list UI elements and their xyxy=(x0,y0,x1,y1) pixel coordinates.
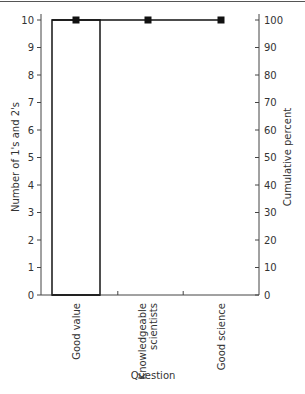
bars xyxy=(52,20,100,295)
left-tick-label: 0 xyxy=(28,290,34,301)
y-axis-title-left: Number of 1's and 2's xyxy=(10,102,21,212)
left-y-axis: 012345678910 xyxy=(21,14,41,301)
left-tick-label: 9 xyxy=(28,42,34,53)
right-tick-label: 30 xyxy=(264,207,277,218)
right-tick-label: 50 xyxy=(264,152,277,163)
right-tick-label: 70 xyxy=(264,97,277,108)
right-tick-label: 60 xyxy=(264,125,277,136)
x-axis-title: Question xyxy=(131,370,176,381)
right-tick-label: 80 xyxy=(264,70,277,81)
x-tick-label: Good science xyxy=(216,303,227,370)
left-tick-label: 1 xyxy=(28,262,34,273)
cumulative-line xyxy=(52,17,225,24)
pareto-chart: 012345678910 0102030405060708090100 Good… xyxy=(0,0,305,394)
left-tick-label: 5 xyxy=(28,152,34,163)
left-tick-label: 2 xyxy=(28,235,34,246)
right-tick-label: 10 xyxy=(264,262,277,273)
square-marker xyxy=(73,17,80,24)
left-tick-label: 6 xyxy=(28,125,34,136)
right-y-axis: 0102030405060708090100 xyxy=(255,14,283,301)
x-tick-label: Knowledgeable xyxy=(137,303,148,379)
right-tick-label: 40 xyxy=(264,180,277,191)
right-tick-label: 20 xyxy=(264,235,277,246)
left-tick-label: 8 xyxy=(28,70,34,81)
x-tick-label: Good value xyxy=(71,303,82,360)
square-marker xyxy=(218,17,225,24)
right-tick-label: 90 xyxy=(264,42,277,53)
x-tick-label: scientists xyxy=(148,303,159,350)
right-tick-label: 0 xyxy=(264,290,270,301)
right-tick-label: 100 xyxy=(264,15,283,26)
x-axis: Good valueKnowledgeablescientistsGood sc… xyxy=(41,291,259,379)
left-tick-label: 4 xyxy=(28,180,34,191)
left-tick-label: 10 xyxy=(21,15,34,26)
bar xyxy=(52,20,100,295)
left-tick-label: 3 xyxy=(28,207,34,218)
left-tick-label: 7 xyxy=(28,97,34,108)
square-marker xyxy=(145,17,152,24)
y-axis-title-right: Cumulative percent xyxy=(282,108,293,207)
